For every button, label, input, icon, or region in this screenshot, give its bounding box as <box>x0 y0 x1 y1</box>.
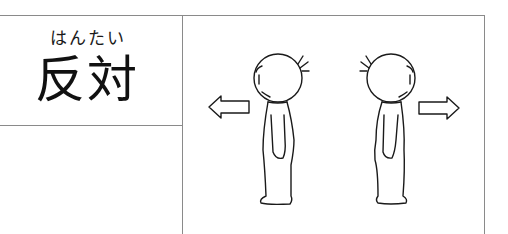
opposite-illustration <box>0 0 508 234</box>
arrow-left-icon <box>209 96 249 118</box>
right-figure <box>360 54 415 204</box>
left-figure <box>254 54 309 204</box>
arrow-right-icon <box>419 97 459 119</box>
